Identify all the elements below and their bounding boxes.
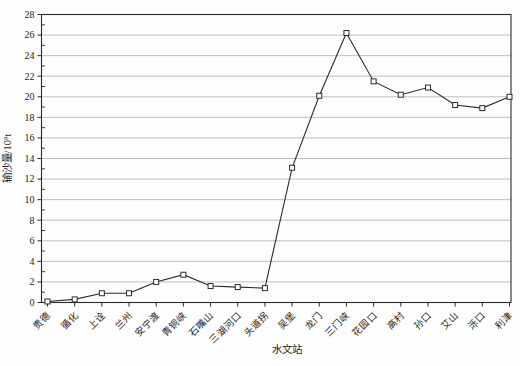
y-tick-label: 12 bbox=[25, 173, 35, 184]
data-point bbox=[425, 85, 430, 90]
data-point bbox=[235, 285, 240, 290]
data-point bbox=[398, 92, 403, 97]
data-point bbox=[262, 286, 267, 291]
data-point bbox=[344, 31, 349, 36]
data-point bbox=[72, 297, 77, 302]
chart-page: 0246810121416182022242628贵德循化上诠兰州安宁渡青铜峡石… bbox=[0, 0, 520, 366]
y-tick-label: 4 bbox=[30, 256, 35, 267]
data-point bbox=[154, 279, 159, 284]
data-point bbox=[45, 299, 50, 304]
y-tick-label: 20 bbox=[25, 91, 35, 102]
data-point bbox=[507, 94, 512, 99]
data-point bbox=[453, 103, 458, 108]
y-tick-label: 2 bbox=[30, 276, 35, 287]
data-point bbox=[99, 291, 104, 296]
y-tick-label: 14 bbox=[25, 153, 35, 164]
data-point bbox=[371, 79, 376, 84]
y-tick-label: 28 bbox=[25, 9, 35, 20]
data-point bbox=[317, 93, 322, 98]
data-point bbox=[480, 106, 485, 111]
y-tick-label: 24 bbox=[25, 50, 35, 61]
chart-background bbox=[0, 0, 520, 366]
y-tick-label: 22 bbox=[25, 71, 35, 82]
y-tick-label: 18 bbox=[25, 112, 35, 123]
chart-canvas: 0246810121416182022242628贵德循化上诠兰州安宁渡青铜峡石… bbox=[0, 0, 520, 366]
y-tick-label: 26 bbox=[25, 29, 35, 40]
y-tick-label: 10 bbox=[25, 194, 35, 205]
y-tick-label: 16 bbox=[25, 132, 35, 143]
sediment-load-line-chart: 0246810121416182022242628贵德循化上诠兰州安宁渡青铜峡石… bbox=[0, 0, 520, 366]
x-axis-title: 水文站 bbox=[272, 343, 303, 355]
y-axis-title: 输沙量/108t bbox=[1, 134, 13, 184]
y-tick-label: 6 bbox=[30, 235, 35, 246]
y-tick-label: 0 bbox=[30, 297, 35, 308]
y-tick-label: 8 bbox=[30, 215, 35, 226]
data-point bbox=[290, 165, 295, 170]
data-point bbox=[181, 272, 186, 277]
data-point bbox=[208, 284, 213, 289]
data-point bbox=[127, 291, 132, 296]
